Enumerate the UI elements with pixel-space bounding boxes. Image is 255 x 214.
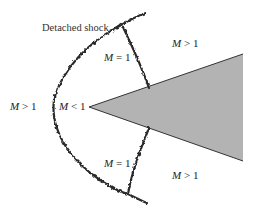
region-stagnation-label: M < 1 (59, 101, 85, 112)
detached-shock-diagram: Detached shock M = 1 M > 1 M > 1 M < 1 M… (0, 0, 255, 214)
detached-shock-label: Detached shock (42, 23, 109, 34)
region-sonic-lower-label: M = 1 (104, 158, 130, 169)
region-upstream-label: M > 1 (10, 101, 36, 112)
diagram-canvas (0, 0, 255, 214)
shock-branch-lower (128, 128, 149, 194)
region-downstream-lower-label: M > 1 (172, 170, 198, 181)
wedge-body (89, 54, 243, 161)
region-downstream-upper-label: M > 1 (172, 38, 198, 49)
region-sonic-upper-label: M = 1 (104, 52, 130, 63)
